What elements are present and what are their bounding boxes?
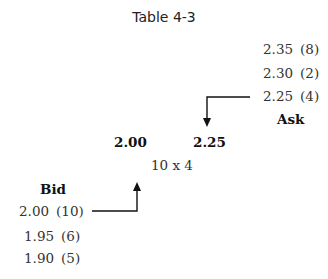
ask-arrow-icon (203, 97, 250, 127)
arrows (0, 0, 328, 279)
bid-arrow-icon (92, 182, 141, 211)
